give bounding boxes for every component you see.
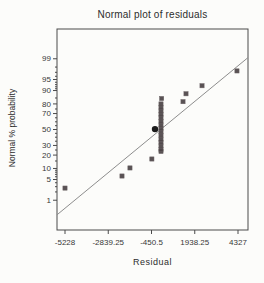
y-tick-label: 1 [47, 196, 52, 205]
data-point-marker [184, 92, 188, 96]
plot-canvas: 99959080705030201051-5228-2839.25-450.51… [0, 0, 264, 283]
y-tick-label: 5 [47, 175, 52, 184]
data-point-marker [128, 166, 132, 170]
y-tick-label: 90 [42, 86, 51, 95]
y-tick-label: 99 [42, 54, 51, 63]
x-tick-label: -2839.25 [92, 238, 124, 247]
normal-plot-figure: Normal plot of residuals Normal % probab… [0, 0, 264, 283]
x-tick-label: 4327 [229, 238, 247, 247]
data-point-marker [181, 100, 185, 104]
y-tick-label: 50 [42, 125, 51, 134]
y-tick-label: 80 [42, 100, 51, 109]
data-point-marker [150, 157, 154, 161]
x-tick-label: -5228 [55, 238, 76, 247]
data-point-marker [200, 84, 204, 88]
data-point-marker [120, 174, 124, 178]
data-point-marker [235, 69, 239, 73]
trend-line [57, 58, 248, 215]
y-tick-label: 20 [42, 151, 51, 160]
data-point-marker [160, 96, 164, 100]
y-tick-label: 10 [42, 164, 51, 173]
x-tick-label: 1938.25 [180, 238, 209, 247]
x-tick-label: -450.5 [140, 238, 163, 247]
y-tick-label: 70 [42, 109, 51, 118]
data-point-marker [159, 134, 163, 138]
data-point-marker [159, 102, 163, 106]
y-axis-ticks: 99959080705030201051 [42, 54, 57, 204]
x-axis-ticks: -5228-2839.25-450.51938.254327 [55, 230, 248, 247]
y-tick-label: 30 [42, 141, 51, 150]
data-point-marker [63, 186, 67, 190]
highlighted-point-marker [152, 126, 158, 132]
y-tick-label: 95 [42, 75, 51, 84]
